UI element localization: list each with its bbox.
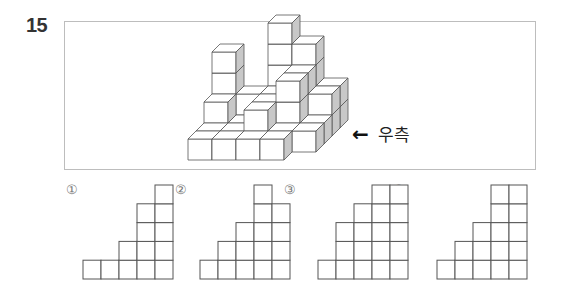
option-3-grid[interactable] [318, 185, 408, 279]
option-grids[interactable] [0, 0, 563, 305]
option-2-grid[interactable] [200, 185, 290, 279]
option-1-grid[interactable] [83, 185, 173, 279]
option-4-grid[interactable] [437, 185, 527, 279]
